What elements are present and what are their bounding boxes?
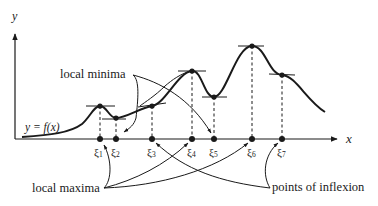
y-axis: y — [11, 9, 18, 139]
xi-label-3: ξ3 — [147, 146, 156, 159]
y-axis-label: y — [11, 9, 18, 23]
xi-label-1: ξ1 — [94, 146, 103, 159]
diagram-canvas: y x y = f(x) — [0, 0, 378, 206]
local-maxima-arrows — [104, 143, 248, 188]
function-curve — [22, 46, 325, 137]
xi-label-7: ξ7 — [277, 146, 286, 159]
stationary-points-diagram: y x y = f(x) — [0, 0, 378, 206]
local-minima-label: local minima — [60, 67, 126, 81]
xi-label-5: ξ5 — [209, 146, 218, 159]
curve-points — [97, 43, 284, 120]
points-of-inflexion-label: points of inflexion — [272, 180, 365, 194]
tangent-lines — [86, 46, 295, 119]
local-minima-arrows — [124, 70, 211, 133]
local-maxima-label: local maxima — [32, 181, 100, 195]
x-axis: x — [15, 131, 352, 146]
xi-label-4: ξ4 — [187, 146, 196, 159]
curve-label: y = f(x) — [24, 121, 60, 134]
xi-labels: ξ1 ξ2 ξ3 ξ4 ξ5 ξ6 ξ7 — [94, 146, 286, 159]
xi-label-2: ξ2 — [111, 146, 120, 159]
drop-lines — [100, 46, 282, 139]
x-axis-label: x — [345, 131, 352, 146]
xi-label-6: ξ6 — [247, 146, 256, 159]
